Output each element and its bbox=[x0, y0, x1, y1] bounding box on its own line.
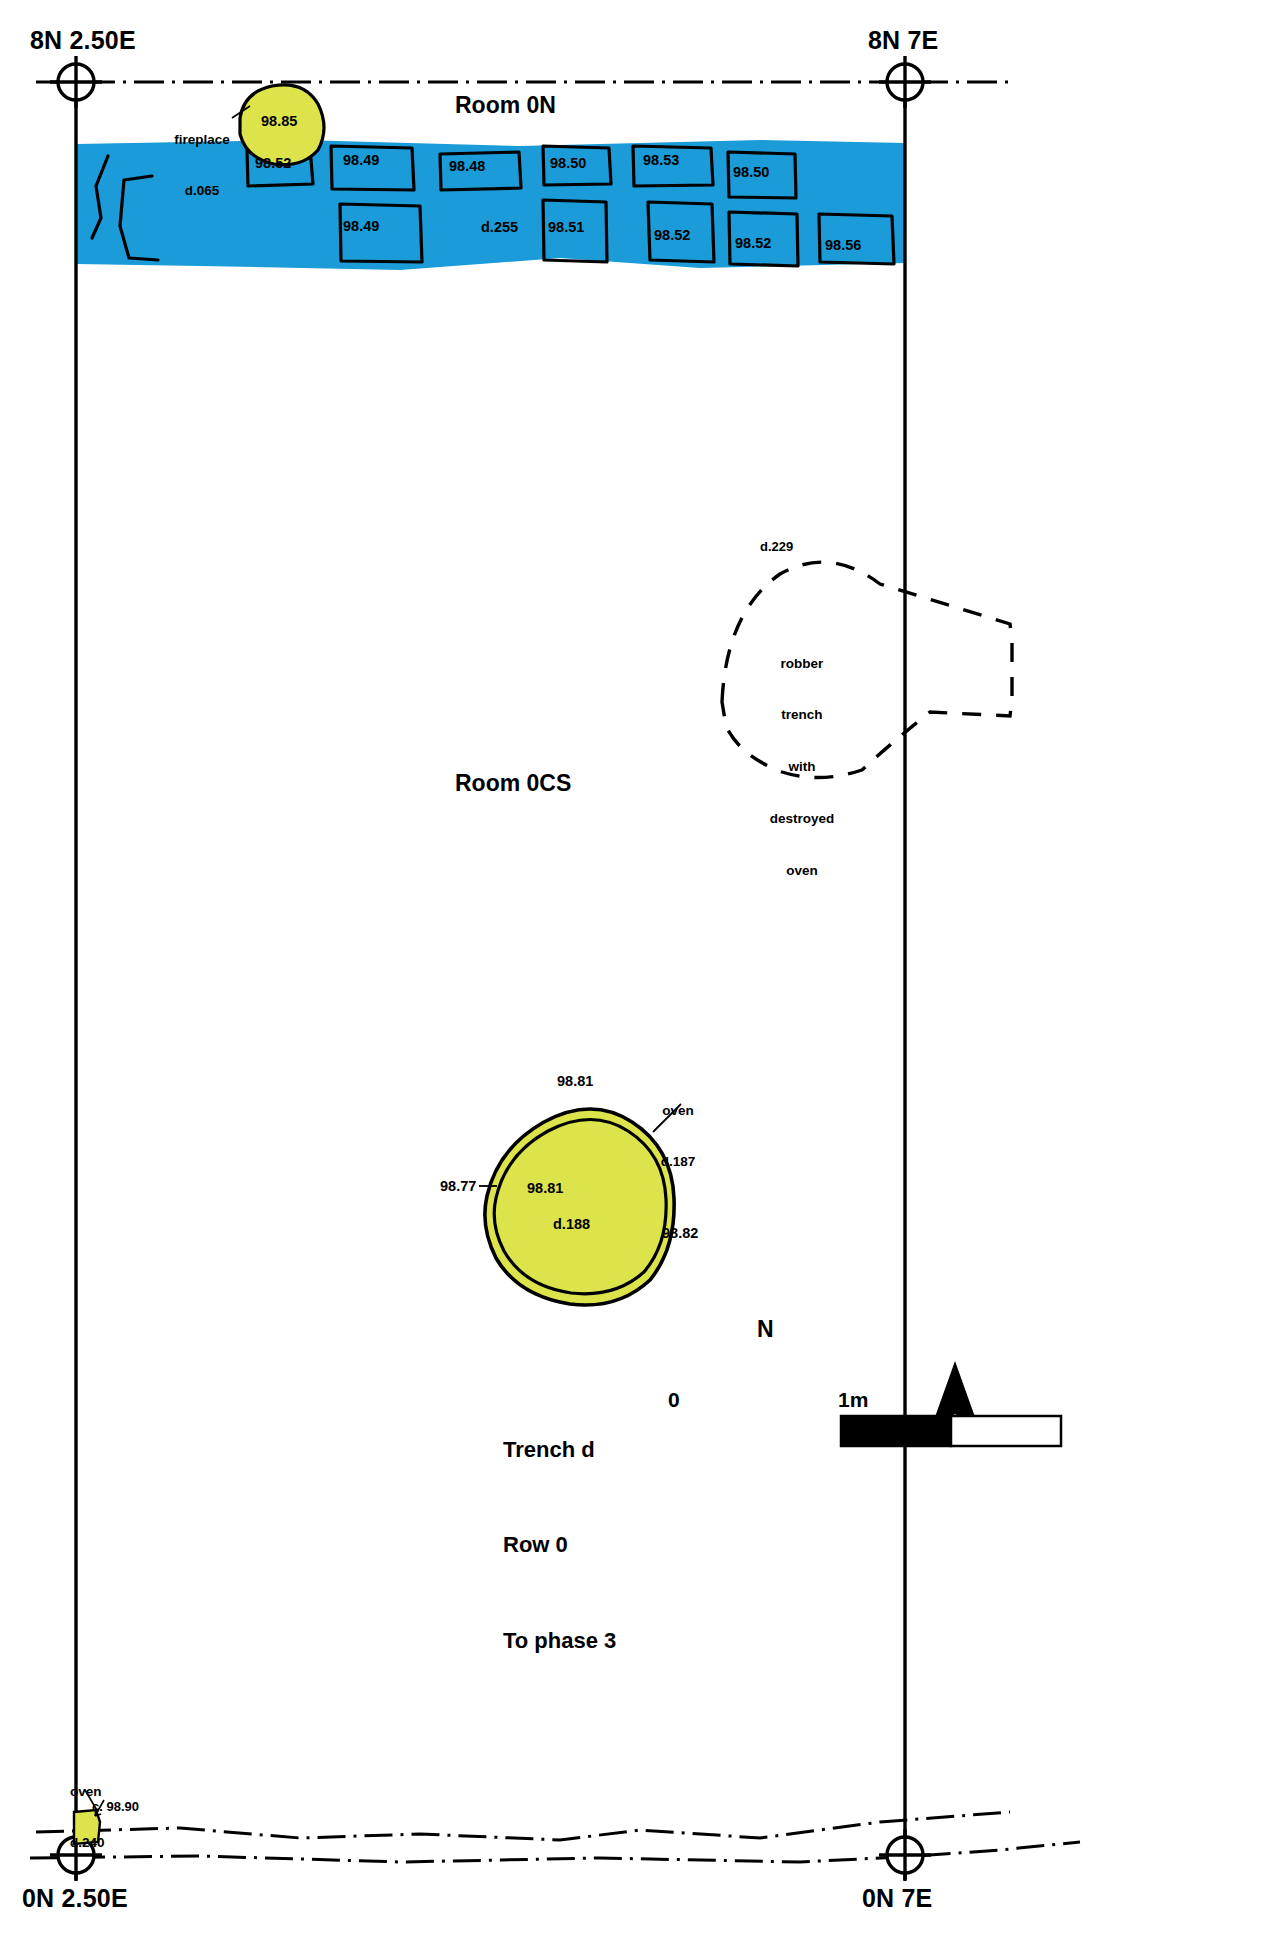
scale-bar-graphic bbox=[841, 1416, 1061, 1446]
stone-elevation-s6: 98.50 bbox=[733, 164, 769, 181]
robber-trench-note: robber trench with destroyed oven bbox=[752, 620, 852, 914]
robber-trench-note-line4: destroyed bbox=[752, 810, 852, 827]
fireplace-label-line1: fireplace bbox=[162, 131, 242, 148]
room-label-0n: Room 0N bbox=[455, 92, 556, 118]
stone-elevation-s8: d.255 bbox=[481, 219, 518, 236]
scale-bar-end-label: 1m bbox=[838, 1388, 868, 1412]
oven-sw-label-line2: d.240 bbox=[70, 1834, 140, 1851]
stone-elevation-s4: 98.50 bbox=[550, 155, 586, 172]
archaeological-plan: 8N 2.50E 8N 7E 0N 2.50E 0N 7E Room 0N Ro… bbox=[0, 0, 1276, 1938]
grid-marker-top-right bbox=[879, 56, 931, 108]
oven-main-label-line1: oven bbox=[640, 1102, 716, 1119]
stone-elevation-s11: 98.52 bbox=[735, 235, 771, 252]
title-block-line3: To phase 3 bbox=[503, 1625, 616, 1657]
robber-trench-note-line5: oven bbox=[752, 862, 852, 879]
fireplace-elevation: 98.85 bbox=[261, 113, 297, 130]
scale-bar-start-label: 0 bbox=[668, 1388, 680, 1412]
title-block-line1: Trench d bbox=[503, 1434, 616, 1466]
title-block: Trench d Row 0 To phase 3 bbox=[503, 1370, 616, 1721]
stone-elevation-s9: 98.51 bbox=[548, 219, 584, 236]
oven-main-inner-context: d.188 bbox=[553, 1216, 590, 1233]
oven-main-elev-right: 98.82 bbox=[662, 1225, 698, 1242]
stone-elevation-s12: 98.56 bbox=[825, 237, 861, 254]
baulk-line-bottom-lower bbox=[30, 1842, 1080, 1862]
oven-main-label: oven d.187 bbox=[640, 1067, 716, 1205]
oven-sw-elevation: c. 98.90 bbox=[92, 1800, 139, 1815]
grid-label-top-left: 8N 2.50E bbox=[30, 26, 136, 55]
robber-trench-note-line1: robber bbox=[752, 655, 852, 672]
title-block-line2: Row 0 bbox=[503, 1529, 616, 1561]
robber-trench-note-line2: trench bbox=[752, 706, 852, 723]
grid-marker-bottom-right bbox=[879, 1829, 931, 1881]
stone-elevation-s5: 98.53 bbox=[643, 152, 679, 169]
grid-marker-top-left bbox=[50, 56, 102, 108]
stone-elevation-s2: 98.49 bbox=[343, 152, 379, 169]
stone-elevation-s3: 98.48 bbox=[449, 158, 485, 175]
oven-sw-label: oven d.240 bbox=[70, 1748, 140, 1886]
stone-elevation-s7: 98.49 bbox=[343, 218, 379, 235]
oven-main-elev-centre: 98.81 bbox=[527, 1180, 563, 1197]
grid-label-top-right: 8N 7E bbox=[868, 26, 938, 55]
grid-label-bottom-right: 0N 7E bbox=[862, 1884, 932, 1913]
baulk-line-bottom-upper bbox=[36, 1812, 1010, 1840]
oven-main-elev-top: 98.81 bbox=[557, 1073, 593, 1090]
robber-trench-note-line3: with bbox=[752, 758, 852, 775]
fireplace-label: fireplace d.065 bbox=[162, 96, 242, 234]
plan-drawing bbox=[0, 0, 1276, 1938]
room-label-0cs: Room 0CS bbox=[455, 770, 571, 796]
oven-sw-label-line1: oven bbox=[70, 1783, 140, 1800]
oven-main-elev-left: 98.77 bbox=[440, 1178, 476, 1195]
stone-elevation-s1: 98.52 bbox=[255, 155, 291, 172]
oven-main-label-line2: d.187 bbox=[640, 1153, 716, 1170]
grid-label-bottom-left: 0N 2.50E bbox=[22, 1884, 128, 1913]
robber-trench-context: d.229 bbox=[760, 540, 793, 555]
fireplace-label-line2: d.065 bbox=[162, 182, 242, 199]
stone-elevation-s10: 98.52 bbox=[654, 227, 690, 244]
north-arrow-icon bbox=[930, 1361, 980, 1431]
north-arrow-label: N bbox=[757, 1316, 774, 1342]
